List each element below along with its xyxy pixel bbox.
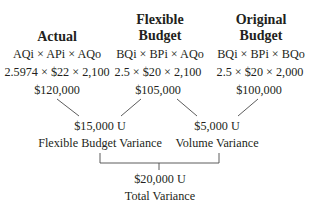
volume-variance-label: Volume Variance bbox=[175, 136, 258, 150]
flexible-budget-variance-label: Flexible Budget Variance bbox=[38, 136, 162, 150]
volume-variance-amount: $5,000 U bbox=[194, 119, 239, 133]
connector-original-to-vv bbox=[238, 99, 258, 116]
connector-flex-to-fbv bbox=[121, 99, 141, 116]
total-variance-bracket bbox=[100, 153, 219, 163]
total-variance-amount: $20,000 U bbox=[134, 172, 185, 186]
connector-actual-to-fbv bbox=[57, 99, 79, 116]
flexible-budget-variance-amount: $15,000 U bbox=[74, 119, 125, 133]
connector-flex-to-vv bbox=[177, 99, 197, 116]
total-variance-label: Total Variance bbox=[125, 189, 195, 203]
